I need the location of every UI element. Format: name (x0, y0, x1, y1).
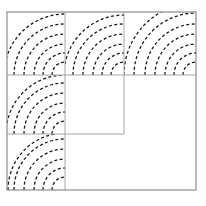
grid-line-layer (7, 12, 196, 190)
arc-group-top-middle-arc-1 (102, 53, 124, 75)
arc-group-top-right-arc-0 (183, 62, 196, 75)
arc-group-lower-left-arc-5 (8, 133, 65, 190)
arc-group-top-left-arc-1 (43, 53, 65, 75)
arc-group-top-right (124, 3, 196, 75)
arc-group-top-middle (64, 15, 124, 75)
outer-border-layer (7, 12, 196, 190)
arc-group-bottom-left-arc-0 (52, 121, 65, 134)
arc-group-top-left-arc-4 (14, 24, 65, 75)
figure-canvas (0, 0, 206, 206)
figure-svg (0, 0, 206, 206)
arc-group-top-left-arc-5 (4, 14, 65, 75)
arc-group-top-right-arc-4 (145, 24, 196, 75)
arc-group-bottom-left (6, 75, 65, 134)
arc-group-top-left (4, 14, 65, 75)
arc-group-top-middle-arc-4 (73, 24, 124, 75)
arc-group-lower-left-arc-0 (52, 177, 65, 190)
arc-group-lower-left-arc-1 (43, 168, 65, 190)
arc-group-top-right-arc-5 (134, 13, 196, 75)
arc-group-top-middle-arc-0 (111, 62, 124, 75)
arc-group-top-left-arc-0 (52, 62, 65, 75)
arc-group-bottom-left-arc-4 (14, 83, 65, 134)
arc-group-top-right-arc-1 (174, 53, 196, 75)
outer-border-rect (7, 12, 196, 190)
arc-group-lower-left (8, 133, 65, 190)
arc-group-bottom-left-arc-1 (43, 112, 65, 134)
arc-layer (4, 3, 196, 190)
arc-group-lower-left-arc-4 (14, 139, 65, 190)
